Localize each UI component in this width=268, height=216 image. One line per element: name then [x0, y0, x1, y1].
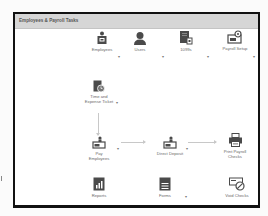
payroll-setup-label: Payroll Setup	[223, 46, 248, 51]
pay-employees-icon	[92, 136, 106, 149]
timesheet-icon	[93, 80, 105, 93]
direct-deposit-button[interactable]: Direct Deposit	[150, 136, 190, 156]
pay-employees-label: Pay Employees	[89, 151, 110, 162]
pay-employees-dropdown-icon[interactable]: ▾	[117, 146, 119, 151]
payroll-setup-icon	[227, 30, 243, 44]
users-dropdown-icon[interactable]: ▾	[162, 54, 164, 59]
employees-dropdown-icon[interactable]: ▾	[118, 54, 120, 59]
print-payroll-checks-label: Print Payroll Checks	[224, 149, 247, 160]
direct-deposit-icon	[163, 136, 177, 149]
1099s-button[interactable]: 1099s	[174, 30, 198, 52]
direct-deposit-dropdown-icon[interactable]: ▾	[186, 146, 188, 151]
payroll-setup-dropdown-icon[interactable]: ▾	[253, 54, 255, 59]
1099s-label: 1099s	[180, 47, 191, 52]
printer-icon	[228, 133, 243, 147]
forms-button[interactable]: Forms	[153, 177, 177, 198]
forms-dropdown-icon[interactable]: ▾	[185, 194, 187, 199]
time-expense-label: Time and Expense Ticket	[85, 94, 113, 105]
pay-employees-button[interactable]: Pay Employees	[84, 136, 114, 162]
user-silhouette-icon	[133, 31, 147, 45]
payroll-setup-button[interactable]: Payroll Setup	[218, 30, 252, 51]
reports-label: Reports	[92, 193, 107, 198]
users-label: Users	[135, 47, 146, 52]
time-expense-ticket-button[interactable]: Time and Expense Ticket	[84, 80, 114, 105]
print-payroll-checks-button[interactable]: Print Payroll Checks	[218, 133, 252, 160]
employees-button[interactable]: Employees	[87, 31, 117, 52]
void-checks-button[interactable]: Void Checks	[222, 177, 252, 198]
arrow-right-1	[121, 142, 145, 143]
1099s-dropdown-icon[interactable]: ▾	[207, 54, 209, 59]
left-edge-mark	[1, 176, 2, 181]
time-expense-dropdown-icon[interactable]: ▾	[116, 100, 118, 105]
direct-deposit-label: Direct Deposit	[157, 151, 183, 156]
employee-badge-icon	[96, 31, 108, 45]
forms-icon	[159, 177, 171, 191]
report-chart-icon	[93, 177, 105, 191]
panel-header: Employees & Payroll Tasks	[15, 14, 258, 29]
arrow-down	[98, 113, 99, 135]
void-check-icon	[229, 177, 245, 191]
tax-form-icon	[179, 30, 193, 45]
void-checks-label: Void Checks	[225, 193, 248, 198]
forms-label: Forms	[159, 193, 171, 198]
users-button[interactable]: Users	[128, 31, 152, 52]
arrow-right-2	[188, 142, 216, 143]
reports-button[interactable]: Reports	[86, 177, 112, 198]
employees-label: Employees	[92, 47, 113, 52]
